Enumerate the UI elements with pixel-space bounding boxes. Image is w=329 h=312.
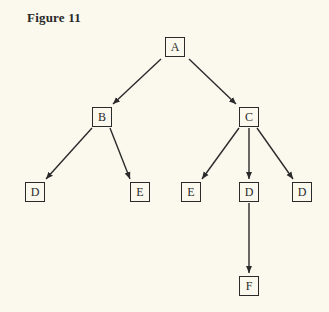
edge-c-d-right <box>257 128 293 179</box>
node-d-left: D <box>25 182 45 202</box>
node-c: C <box>239 107 259 127</box>
node-e-left: E <box>130 182 150 202</box>
node-a: A <box>165 37 185 57</box>
node-f: F <box>239 276 259 296</box>
node-d-right: D <box>292 182 312 202</box>
edge-c-e <box>202 128 239 179</box>
edge-b-d <box>46 128 92 179</box>
node-d-middle: D <box>239 182 259 202</box>
node-e-right: E <box>181 182 201 202</box>
edge-a-b <box>113 59 161 104</box>
edge-a-c <box>189 59 236 104</box>
edge-b-e <box>110 128 130 179</box>
node-b: B <box>92 107 112 127</box>
